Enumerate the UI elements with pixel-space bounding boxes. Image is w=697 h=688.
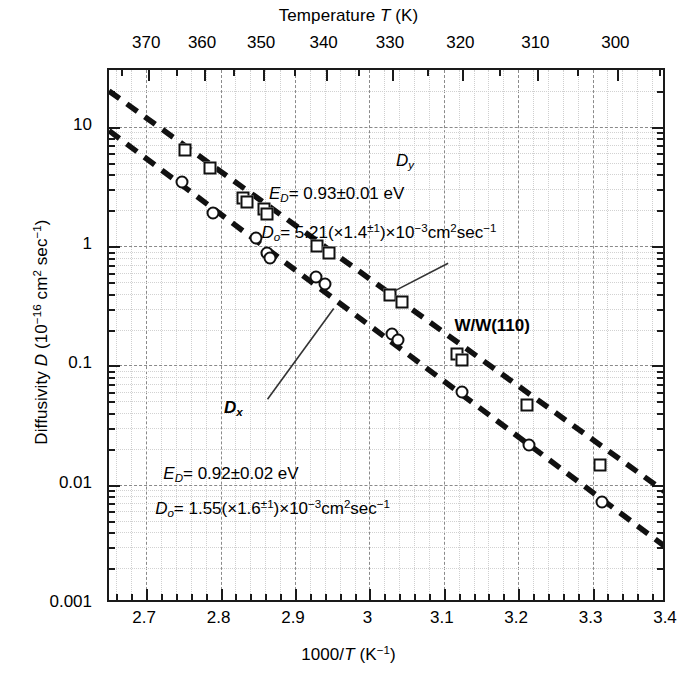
leader-line-dx	[268, 309, 334, 400]
annotation-dx-activation-energy: ED= 0.92±0.02 eV	[163, 464, 298, 484]
bottom-tick-label: 3	[363, 608, 372, 628]
left-tick-label: 0.1	[0, 353, 100, 373]
leader-lines	[109, 70, 665, 602]
bottom-tick-label: 2.8	[207, 608, 231, 628]
top-tick-label: 360	[188, 33, 216, 53]
bottom-tick-label: 2.9	[281, 608, 305, 628]
top-tick-label: 300	[601, 33, 629, 53]
figure-root: Temperature T (K) 1000/T (K−1) Diffusivi…	[0, 0, 697, 688]
top-tick-label: 310	[521, 33, 549, 53]
top-tick-label: 320	[446, 33, 474, 53]
annotation-dy-prefactor: Do= 5.21(×1.4±1)×10−3cm2sec−1	[262, 223, 497, 243]
bottom-axis-title: 1000/T (K−1)	[0, 645, 697, 665]
top-axis-title: Temperature T (K)	[0, 6, 697, 26]
top-tick-label: 350	[247, 33, 275, 53]
left-tick-label: 0.01	[0, 473, 100, 493]
top-tick-label: 340	[309, 33, 337, 53]
bottom-tick-label: 3.3	[579, 608, 603, 628]
annotation-dy-activation-energy: ED= 0.93±0.01 eV	[269, 184, 404, 204]
top-axis-title-symbol: T	[380, 6, 390, 25]
sample-label: W/W(110)	[454, 316, 530, 336]
bottom-tick-label: 3.4	[653, 608, 677, 628]
left-tick-labels: 1010.10.010.001	[0, 0, 100, 688]
annotation-dx-label: Dx	[224, 398, 243, 418]
top-tick-label: 330	[376, 33, 404, 53]
left-tick-label: 10	[0, 115, 100, 135]
bottom-tick-label: 3.2	[504, 608, 528, 628]
left-tick-label: 0.001	[0, 592, 100, 612]
plot-area: Dy ED= 0.93±0.01 eV Do= 5.21(×1.4±1)×10−…	[107, 68, 665, 602]
bottom-tick-label: 2.7	[132, 608, 156, 628]
annotation-dx-prefactor: Do= 1.55(×1.6±1)×10−3cm2sec−1	[155, 499, 390, 519]
left-tick-label: 1	[0, 234, 100, 254]
bottom-tick-label: 3.1	[430, 608, 454, 628]
annotation-dy-label: Dy	[396, 151, 414, 171]
bottom-axis-title-symbol: T	[344, 645, 354, 664]
top-tick-label: 370	[132, 33, 160, 53]
leader-line-dy	[394, 263, 448, 291]
